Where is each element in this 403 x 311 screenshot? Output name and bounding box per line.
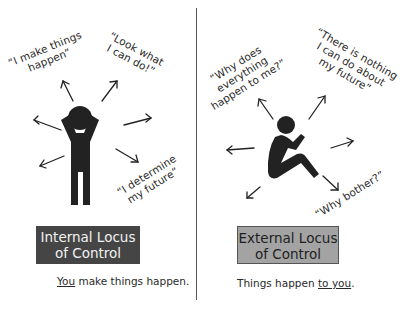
caption-period: . (351, 277, 354, 289)
caption-emphasis: You (57, 275, 75, 287)
caption-text: make things happen. (75, 275, 189, 287)
box-line: External Locus (238, 230, 338, 246)
caption-text: Things happen (237, 277, 318, 289)
box-line: of Control (238, 246, 338, 262)
external-locus-panel: “Why does everything happen to me?” “The… (197, 0, 403, 311)
external-caption: Things happen to you. (237, 277, 355, 289)
seated-person-hugging-knees-icon (197, 0, 403, 311)
internal-caption: You make things happen. (57, 275, 189, 287)
caption-emphasis: to you (318, 277, 351, 289)
internal-locus-panel: “I make things happen” “Look what I can … (0, 0, 196, 311)
box-line: of Control (36, 245, 140, 261)
external-locus-label-box: External Locus of Control (237, 226, 339, 264)
box-line: Internal Locus (36, 229, 140, 245)
internal-locus-label-box: Internal Locus of Control (36, 226, 140, 264)
standing-person-arms-raised-icon (0, 0, 196, 311)
